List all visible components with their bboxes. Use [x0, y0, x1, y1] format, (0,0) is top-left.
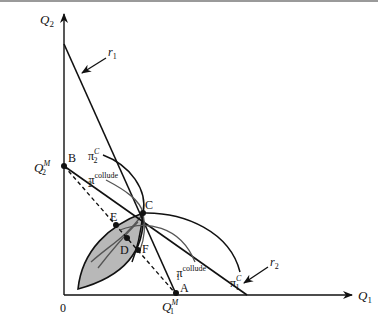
- point-C-label: C: [145, 198, 153, 212]
- x-axis-label: Q1: [358, 288, 372, 305]
- y-axis-label: Q2: [40, 12, 54, 29]
- r1-label: r1: [108, 45, 117, 61]
- q2-monopoly-label: QM2: [34, 159, 51, 177]
- point-B-label: B: [68, 151, 76, 165]
- point-F: [135, 247, 141, 253]
- pi1-collude-label: πcollude1: [176, 264, 206, 282]
- point-D: [124, 235, 130, 241]
- r1-pointer-arrow: [82, 58, 106, 73]
- cournot-collusion-diagram: Q2 Q1 0 QM1 QM2 r1 r2 πC2 πcollude2 πcol…: [0, 0, 378, 316]
- r2-label: r2: [270, 255, 279, 271]
- pi2-collude-label: πcollude2: [88, 171, 118, 189]
- pi2-cournot-label: πC2: [88, 147, 100, 165]
- point-A-label: A: [180, 281, 189, 295]
- point-A: [173, 290, 179, 296]
- point-E-label: E: [110, 210, 117, 224]
- pareto-lens-region: [78, 213, 143, 289]
- point-F-label: F: [142, 242, 149, 256]
- r2-pointer-arrow: [244, 267, 268, 283]
- origin-label: 0: [60, 301, 66, 315]
- q1-monopoly-label: QM1: [162, 298, 179, 316]
- point-B: [61, 163, 67, 169]
- point-D-label: D: [120, 243, 129, 257]
